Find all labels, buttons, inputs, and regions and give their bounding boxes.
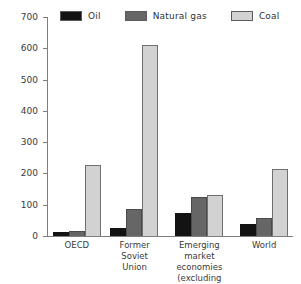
bar-set	[106, 17, 164, 236]
plot-area: 0100200300400500600700	[47, 17, 293, 236]
y-axis-tick-label: 300	[21, 137, 38, 147]
y-axis-tick-label: 0	[32, 231, 38, 241]
bar-coal	[207, 195, 223, 236]
bar-group	[48, 17, 106, 236]
y-axis-tick	[43, 48, 47, 49]
category-label-line: World	[236, 240, 292, 251]
bar-oil	[240, 224, 256, 237]
category-label-line: Soviet	[107, 251, 163, 262]
y-axis-tick-label: 500	[21, 75, 38, 85]
bar-group	[235, 17, 293, 236]
y-axis-tick-label: 700	[21, 12, 38, 22]
y-axis-tick-label: 600	[21, 43, 38, 53]
y-axis-tick	[43, 173, 47, 174]
category-label-line: OECD	[49, 240, 105, 251]
bar-oil	[175, 213, 191, 236]
bar-coal	[272, 169, 288, 236]
bar-set	[163, 17, 235, 236]
category-label-line: Emerging market	[165, 240, 235, 262]
bar-set	[48, 17, 106, 236]
y-axis-tick-label: 100	[21, 200, 38, 210]
category-label-line: Union	[107, 262, 163, 273]
bar-natural-gas	[256, 218, 272, 236]
y-axis-tick	[43, 111, 47, 112]
x-axis-line	[47, 236, 293, 237]
bar-group	[163, 17, 235, 236]
category-label-line: Former	[107, 240, 163, 251]
y-axis-tick	[43, 205, 47, 206]
bar-oil	[110, 228, 126, 236]
bar-set	[235, 17, 293, 236]
y-axis-tick	[43, 142, 47, 143]
y-axis-tick	[43, 236, 47, 237]
category-label: FormerSovietUnion	[106, 240, 164, 284]
category-label-line: economies (excluding	[165, 262, 235, 284]
bar-coal	[85, 165, 101, 236]
y-axis-tick-label: 400	[21, 106, 38, 116]
bar-chart: Oil Natural gas Coal 0100200300400500600…	[0, 0, 301, 284]
bar-groups	[48, 17, 293, 236]
category-label: OECD	[48, 240, 106, 284]
category-label: Emerging marketeconomies (excludingcentr…	[164, 240, 236, 284]
bar-natural-gas	[69, 231, 85, 236]
y-axis-tick	[43, 80, 47, 81]
x-axis-category-labels: OECDFormerSovietUnionEmerging marketecon…	[48, 240, 293, 284]
bar-oil	[53, 232, 69, 236]
y-axis-tick	[43, 17, 47, 18]
y-axis-tick-label: 200	[21, 168, 38, 178]
bar-natural-gas	[126, 209, 142, 236]
bar-natural-gas	[191, 197, 207, 236]
bar-coal	[142, 45, 158, 236]
category-label: World	[235, 240, 293, 284]
bar-group	[106, 17, 164, 236]
